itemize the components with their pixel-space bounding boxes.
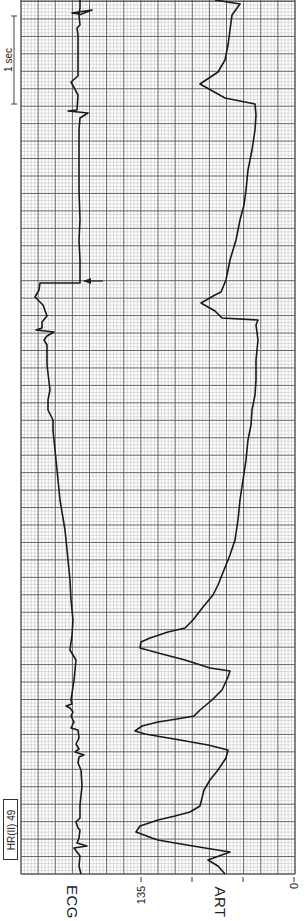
heart-rate-text: HR(II) 49 (5, 809, 16, 850)
art-tick-0-label: 0 (288, 883, 300, 889)
one-sec-label: 1 sec (3, 48, 14, 72)
art-trace (135, 0, 258, 874)
art-axis-ticks (141, 877, 294, 882)
ecg-art-strip-chart: HR(II) 49 1 sec 135 0 ECG ART (0, 0, 308, 921)
art-channel-label: ART (212, 886, 229, 917)
heart-rate-badge: HR(II) 49 (3, 799, 18, 860)
art-tick-135-label: 135 (135, 886, 147, 904)
chart-svg (0, 0, 308, 921)
ecg-channel-label: ECG (64, 885, 81, 919)
ecg-trace (35, 0, 92, 874)
